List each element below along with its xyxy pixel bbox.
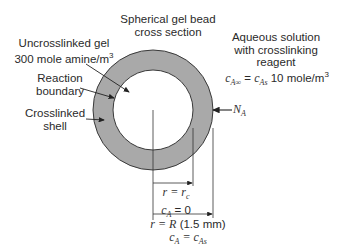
uncrosslinked-gel-label: Uncrosslinked gel 300 mole amine/m3 bbox=[14, 37, 114, 65]
solution-line-3: reagent bbox=[226, 56, 326, 69]
title-line-2: cross section bbox=[108, 26, 228, 39]
flux-label: NA bbox=[233, 103, 246, 121]
reaction-boundary-label: Reaction boundary bbox=[30, 72, 90, 97]
reaction-line-1: Reaction bbox=[30, 72, 90, 85]
solution-line-1: Aqueous solution bbox=[226, 31, 326, 44]
gel-bead-diagram: Spherical gel bead cross section Uncross… bbox=[0, 0, 337, 250]
diagram-title: Spherical gel bead cross section bbox=[108, 13, 228, 38]
inner-r-line: r = rc bbox=[158, 186, 194, 204]
crosslinked-line-2: shell bbox=[20, 120, 90, 133]
bulk-concentration-label: cA∞ = cAs 10 mole/m3 bbox=[219, 69, 335, 90]
crosslinked-line-1: Crosslinked bbox=[20, 107, 90, 120]
uncrosslinked-line-1: Uncrosslinked gel bbox=[14, 37, 114, 50]
outer-c-line: cA = cAs bbox=[148, 231, 228, 249]
solution-line-2: with crosslinking bbox=[226, 44, 326, 57]
uncrosslinked-line-2: 300 mole amine/m3 bbox=[14, 50, 114, 66]
crosslinked-shell-label: Crosslinked shell bbox=[20, 107, 90, 132]
aqueous-solution-label: Aqueous solution with crosslinking reage… bbox=[226, 31, 326, 69]
title-line-1: Spherical gel bead bbox=[108, 13, 228, 26]
inner-radius-label: r = rc cA = 0 bbox=[158, 186, 194, 221]
reaction-line-2: boundary bbox=[30, 85, 90, 98]
outer-radius-label: r = R (1.5 mm) cA = cAs bbox=[148, 218, 228, 248]
